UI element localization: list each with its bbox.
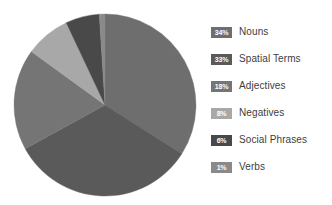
legend-item-adjectives[interactable]: 18% Adjectives [211,80,329,92]
legend-swatch-adjectives: 18% [211,81,232,92]
legend-label-verbs: Verbs [239,162,265,172]
legend-label-spatial-terms: Spatial Terms [239,54,301,64]
pie-slice-group [14,14,196,196]
legend-swatch-negatives: 8% [211,108,232,119]
pie-chart-graphic [13,13,197,197]
chart-legend: 34% Nouns 33% Spatial Terms 18% Adjectiv… [211,26,329,188]
legend-item-spatial-terms[interactable]: 33% Spatial Terms [211,53,329,65]
legend-swatch-verbs: 1% [211,162,232,173]
legend-percent-verbs: 1% [217,164,227,171]
legend-swatch-social-phrases: 6% [211,135,232,146]
legend-label-social-phrases: Social Phrases [239,135,307,145]
pie-chart-figure: 34% Nouns 33% Spatial Terms 18% Adjectiv… [0,0,332,205]
legend-percent-negatives: 8% [217,110,227,117]
legend-swatch-nouns: 34% [211,27,232,38]
legend-percent-spatial-terms: 33% [215,56,228,63]
legend-label-adjectives: Adjectives [239,81,286,91]
legend-item-verbs[interactable]: 1% Verbs [211,161,329,173]
legend-item-negatives[interactable]: 8% Negatives [211,107,329,119]
legend-item-social-phrases[interactable]: 6% Social Phrases [211,134,329,146]
legend-item-nouns[interactable]: 34% Nouns [211,26,329,38]
legend-label-negatives: Negatives [239,108,284,118]
legend-percent-social-phrases: 6% [217,137,227,144]
pie-svg [13,13,197,197]
legend-percent-adjectives: 18% [215,83,228,90]
legend-percent-nouns: 34% [215,29,228,36]
legend-swatch-spatial-terms: 33% [211,54,232,65]
legend-label-nouns: Nouns [239,27,268,37]
